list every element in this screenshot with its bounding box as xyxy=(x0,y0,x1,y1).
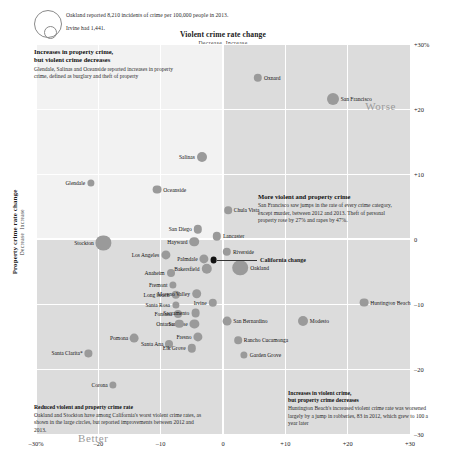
annotation-top-left-body: Glendale, Salinas and Oceanside reported… xyxy=(34,66,174,80)
point-label-glendale: Glendale xyxy=(65,180,85,186)
bubble-san-bernardino[interactable] xyxy=(222,316,231,325)
annotation-bottom-left: Reduced violent and property crime rate … xyxy=(34,404,202,434)
bubble-san-francisco[interactable] xyxy=(327,93,339,105)
annotation-middle-right: More violent and property crime San Fran… xyxy=(258,193,398,224)
point-label-santa-rosa: Santa Rosa xyxy=(145,302,170,308)
gridline-y-10 xyxy=(36,174,410,175)
annotation-top-left-heading: Increases in property crime, but violent… xyxy=(34,48,174,65)
x-axis-title-text: Violent crime rate change xyxy=(180,30,266,39)
point-label-san-bernardino: San Bernardino xyxy=(233,318,267,324)
point-label-sacramento: Sacramento xyxy=(163,310,189,316)
annotation-bottom-right-body: Huntington Beach's increased violent cri… xyxy=(288,405,428,427)
point-label-chula-vista: Chula Vista xyxy=(234,207,260,213)
point-label-elk-grove: Elk Grove xyxy=(163,345,186,351)
point-label-hayward: Hayward xyxy=(167,238,187,244)
point-label-corona: Corona xyxy=(91,381,107,387)
y-axis-decrease-label: Decrease xyxy=(19,233,25,255)
legend-line-2: Irvine had 1,441. xyxy=(66,25,105,31)
legend-line-1: Oakland reported 8,210 incidents of crim… xyxy=(66,12,228,18)
gridline-y-20 xyxy=(36,109,410,110)
point-label-oceanside: Oceanside xyxy=(163,186,186,192)
point-label-moreno-valley: Moreno Valley xyxy=(157,290,190,296)
x-tick-0: 0 xyxy=(221,440,224,447)
bubble-huntington-beach[interactable] xyxy=(359,298,368,307)
legend-small-bubble-icon xyxy=(44,26,57,39)
point-label-santa-clarita: Santa Clarita* xyxy=(51,350,82,356)
bubble-chula-vista[interactable] xyxy=(224,207,232,215)
annotation-bottom-right: Increases in violent crime, but property… xyxy=(288,390,428,427)
annotation-bottom-left-heading: Reduced violent and property crime rate xyxy=(34,404,202,411)
point-label-santa-ana: Santa Ana xyxy=(141,341,163,347)
bubble-modesto[interactable] xyxy=(298,316,308,326)
point-label-modesto: Modesto xyxy=(310,318,329,324)
y-axis-title-text: Property crime rate change xyxy=(11,162,19,302)
point-label-lancaster: Lancaster xyxy=(223,233,244,239)
bubble-salinas[interactable] xyxy=(197,152,207,162)
gridline-y--20 xyxy=(36,369,410,370)
point-label-san-diego: San Diego xyxy=(169,226,192,232)
bubble-california-change[interactable] xyxy=(210,256,217,263)
y-tick-0: 0 xyxy=(414,236,417,243)
annotation-middle-right-heading: More violent and property crime xyxy=(258,193,398,201)
annotation-top-left-heading-line1: Increases in property crime, xyxy=(34,48,174,56)
point-label-fremont: Fremont xyxy=(149,281,168,287)
point-label-los-angeles: Los Angeles xyxy=(132,251,159,257)
annotation-middle-right-body: San Francisco saw jumps in the rate of e… xyxy=(258,202,398,224)
annotation-top-left-heading-line2: but violent crime decreases xyxy=(34,56,174,64)
point-label-irvine: Irvine xyxy=(194,299,207,305)
annotation-bottom-left-body: Oakland and Stockton have among Californ… xyxy=(34,412,202,434)
y-tick--20: –20 xyxy=(414,366,424,373)
y-axis-increase-label: Increase xyxy=(19,209,25,229)
x-tick--10: –10 xyxy=(156,440,166,447)
y-tick--30: –30 xyxy=(414,431,424,438)
point-label-oxnard: Oxnard xyxy=(264,75,281,81)
california-change-leader-line xyxy=(217,260,257,261)
gridline-y-30 xyxy=(36,44,410,45)
y-tick-10: +10 xyxy=(414,171,424,178)
bubble-rancho-cucamonga[interactable] xyxy=(234,337,242,345)
bubble-pomona[interactable] xyxy=(130,333,139,342)
annotation-bottom-right-heading-line1: Increases in violent crime, xyxy=(288,390,428,397)
bubble-anaheim[interactable] xyxy=(167,269,175,277)
infographic-root: Oakland reported 8,210 incidents of crim… xyxy=(0,0,450,471)
california-change-label: California change xyxy=(260,257,306,263)
bubble-san-diego[interactable] xyxy=(194,225,202,233)
bubble-oakland[interactable] xyxy=(233,260,249,276)
point-label-pomona: Pomona xyxy=(110,335,128,341)
point-label-anaheim: Anaheim xyxy=(144,270,164,276)
point-label-riverside: Riverside xyxy=(233,249,254,255)
scatter-plot-area: OxnardSan FranciscoSalinasGlendaleOceans… xyxy=(36,44,410,434)
x-tick--30: –30% xyxy=(29,440,44,447)
y-axis-title: Property crime rate change Decrease Incr… xyxy=(11,162,25,302)
x-tick-10: +10 xyxy=(280,440,290,447)
point-label-rancho-cucamonga: Rancho Cucamonga xyxy=(244,337,288,343)
y-tick-20: +20 xyxy=(414,106,424,113)
bubble-sacramento[interactable] xyxy=(191,309,200,318)
annotation-bottom-right-heading: Increases in violent crime, but property… xyxy=(288,390,428,404)
point-label-palmdale: Palmdale xyxy=(177,255,197,261)
quadrant-label-worse: Worse xyxy=(365,100,396,112)
point-label-huntington-beach: Huntington Beach xyxy=(370,299,410,305)
bubble-moreno-valley[interactable] xyxy=(192,289,202,299)
annotation-bottom-right-heading-line2: but property crime decreases xyxy=(288,397,428,404)
y-tick-30: +30% xyxy=(414,41,429,48)
point-label-oakland: Oakland xyxy=(250,264,269,270)
x-tick-30: +30 xyxy=(405,440,415,447)
x-tick--20: –20 xyxy=(94,440,104,447)
x-tick-20: +20 xyxy=(343,440,353,447)
point-label-stockton: Stockton xyxy=(74,240,94,246)
bubble-glendale[interactable] xyxy=(87,180,94,187)
bubble-oceanside[interactable] xyxy=(153,185,162,194)
point-label-salinas: Salinas xyxy=(179,154,195,160)
point-label-ontario: Ontario xyxy=(156,320,173,326)
point-label-fresno: Fresno xyxy=(176,333,191,339)
point-label-bakersfield: Bakersfield xyxy=(174,266,199,272)
y-axis-direction-labels: Decrease Increase xyxy=(19,162,25,302)
y-tick--10: –10 xyxy=(414,301,424,308)
gridline-y--10 xyxy=(36,304,410,305)
annotation-top-left: Increases in property crime, but violent… xyxy=(34,48,174,80)
point-label-garden-grove: Garden Grove xyxy=(250,351,281,357)
bubble-hayward[interactable] xyxy=(190,237,200,247)
